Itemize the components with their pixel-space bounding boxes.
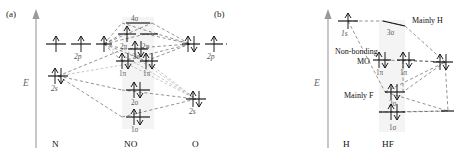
panel-b-hf-diagram: 1s 3σ 1π 1π xyxy=(227,0,454,161)
panel-b-svg: 1s 3σ 1π 1π xyxy=(227,0,454,161)
n-2p-label: 2p xyxy=(74,52,82,61)
mo-1pi-a-label: 1π xyxy=(119,70,127,78)
mo-1pi-b-hf-label: 1π xyxy=(400,69,408,77)
mo-4sigma-label: 4σ xyxy=(131,15,139,23)
panel-b-label: (b) xyxy=(214,9,225,19)
n-2p-levels xyxy=(46,36,112,52)
bottom-label-hf: HF xyxy=(382,139,394,149)
mo-3sigma-hf-label: 3σ xyxy=(387,29,395,37)
mo-1sigma-label: 1σ xyxy=(131,126,139,134)
bottom-label-h: H xyxy=(343,139,350,149)
mo-3sigma-label: 3σ xyxy=(133,53,141,61)
h-1s-level xyxy=(338,13,358,29)
panel-a-svg: 2p 2s 2p 2s 4σ xyxy=(0,0,227,161)
o-2p-label: 2p xyxy=(207,52,215,61)
panel-a-no-diagram: 2p 2s 2p 2s 4σ xyxy=(0,0,227,161)
panel-a-label: (a) xyxy=(6,9,16,19)
energy-axis-b xyxy=(324,9,331,148)
mo-1pi-a-hf-label: 1π xyxy=(376,69,384,77)
annotation-mainly-h: Mainly H xyxy=(412,16,443,25)
annotation-mo: MO xyxy=(357,57,370,66)
mo-2sigma-label: 2σ xyxy=(131,99,139,107)
energy-axis-label-a: E xyxy=(22,78,29,88)
energy-axis-label-b: E xyxy=(313,78,320,88)
annotation-non-bonding: Non-bonding xyxy=(335,47,378,56)
mo-2pi-a-label: 2π xyxy=(120,43,128,51)
n-2s-label: 2s xyxy=(51,84,58,93)
bottom-label-n: N xyxy=(52,139,59,149)
annotation-mainly-f: Mainly F xyxy=(344,91,374,100)
o-2s-label: 2s xyxy=(189,107,196,116)
o-2p-levels xyxy=(182,36,227,52)
bottom-label-no: NO xyxy=(124,139,138,149)
mo-1sigma-hf-label: 1σ xyxy=(389,124,397,132)
n-2s-level xyxy=(48,68,68,84)
mo-1pi-b-label: 1π xyxy=(143,70,151,78)
h-1s-label: 1s xyxy=(341,29,348,38)
f-2p-level xyxy=(433,54,453,70)
energy-axis xyxy=(32,9,39,148)
bottom-label-o: O xyxy=(192,139,199,149)
mo-2pi-b-label: 2π xyxy=(142,43,150,51)
